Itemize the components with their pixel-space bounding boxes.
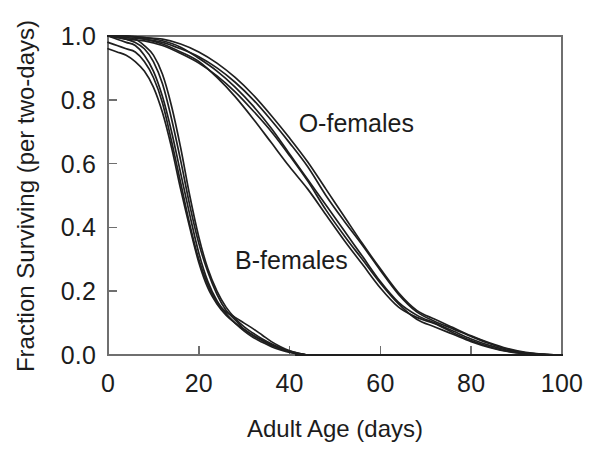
series-annotations: O-femalesB-females	[235, 109, 414, 274]
y-tick-label-0.0: 0.0	[61, 341, 96, 369]
x-tick-label-20: 20	[185, 369, 213, 397]
y-tick-label-0.2: 0.2	[61, 277, 96, 305]
survival-curves	[108, 36, 562, 355]
curve-o-females-replicate-3	[108, 36, 562, 355]
x-tick-label-0: 0	[101, 369, 115, 397]
y-axis-tick-labels: 0.00.20.40.60.81.0	[61, 22, 96, 369]
curve-b-females-replicate-1	[108, 36, 562, 355]
curve-b-females-replicate-2	[108, 36, 562, 355]
curve-o-females-replicate-1	[108, 36, 562, 355]
survival-chart-svg: 020406080100 0.00.20.40.60.81.0 O-female…	[0, 0, 607, 461]
x-tick-label-80: 80	[457, 369, 485, 397]
curve-b-females-replicate-5	[108, 42, 562, 355]
y-tick-label-0.4: 0.4	[61, 213, 96, 241]
annotation-b-females: B-females	[235, 246, 348, 274]
x-tick-label-60: 60	[366, 369, 394, 397]
y-tick-label-0.8: 0.8	[61, 86, 96, 114]
y-tick-label-1.0: 1.0	[61, 22, 96, 50]
y-tick-label-0.6: 0.6	[61, 150, 96, 178]
annotation-o-females: O-females	[299, 109, 414, 137]
plot-frame	[108, 36, 562, 355]
survival-curve-figure: 020406080100 0.00.20.40.60.81.0 O-female…	[0, 0, 607, 461]
x-axis-tick-labels: 020406080100	[101, 369, 583, 397]
curve-o-females-replicate-5	[108, 36, 562, 355]
y-axis-ticks	[108, 36, 117, 355]
curve-o-females-replicate-2	[108, 36, 562, 355]
x-tick-label-100: 100	[541, 369, 583, 397]
x-axis-title: Adult Age (days)	[247, 415, 423, 442]
curve-b-females-replicate-4	[108, 36, 562, 355]
curve-o-females-replicate-4	[108, 36, 562, 355]
x-tick-label-40: 40	[275, 369, 303, 397]
y-axis-title: Fraction Surviving (per two-days)	[12, 20, 39, 372]
